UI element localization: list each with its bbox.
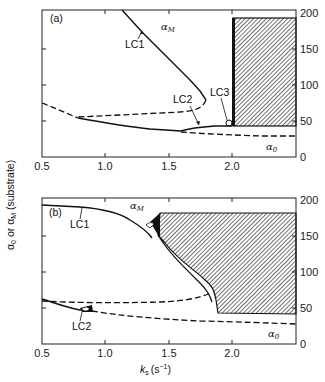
panel-a-alpha-0-label: α0 bbox=[266, 141, 278, 154]
x-axis-label: ks(s−1) bbox=[140, 363, 171, 376]
panel-a-label: (a) bbox=[50, 12, 63, 24]
panel-b-alpha-m-label: αM bbox=[130, 200, 145, 213]
panel-a-alpha0-unstable-left bbox=[42, 103, 78, 118]
panel-b-xtick: 0.5 bbox=[34, 347, 49, 359]
panel-a-lc1-label: LC1 bbox=[125, 38, 144, 50]
bifurcation-figure: α0 or αM (substrate) 0.5 1.0 1.5 2.0 0 5… bbox=[0, 0, 325, 382]
panel-b-ytick: 100 bbox=[300, 266, 318, 278]
panel-a-xtick: 2.0 bbox=[224, 160, 239, 172]
panel-b-ytick: 150 bbox=[300, 230, 318, 242]
panel-b-ytick: 0 bbox=[300, 338, 306, 350]
panel-b-ytick: 200 bbox=[300, 194, 318, 206]
panel-b-alpha-0-label: α0 bbox=[268, 328, 280, 341]
panel-a-xtick: 0.5 bbox=[34, 160, 49, 172]
panel-a: 0.5 1.0 1.5 2.0 0 50 100 150 200 (a) αM … bbox=[34, 7, 318, 172]
panel-b: 0.5 1.0 1.5 2.0 0 50 100 150 200 (b) αM … bbox=[34, 194, 318, 376]
panel-b-ytick: 50 bbox=[300, 302, 312, 314]
panel-a-ytick: 200 bbox=[300, 7, 318, 19]
panel-a-hatched-region bbox=[233, 18, 296, 126]
panel-a-lc2-branch bbox=[181, 126, 232, 131]
panel-b-hatched-region bbox=[158, 213, 296, 314]
panel-a-ytick: 100 bbox=[300, 79, 318, 91]
panel-a-ytick: 50 bbox=[300, 115, 312, 127]
panel-a-alpha0-stable bbox=[78, 118, 181, 131]
panel-a-xtick: 1.5 bbox=[161, 160, 176, 172]
panel-a-lc3-label: LC3 bbox=[210, 86, 229, 98]
panel-a-xtick: 1.0 bbox=[97, 160, 112, 172]
panel-b-xtick: 2.0 bbox=[224, 347, 239, 359]
y-axis-label: α0 or αM (substrate) bbox=[4, 160, 17, 250]
panel-b-xtick: 1.0 bbox=[97, 347, 112, 359]
panel-b-lc2-label: LC2 bbox=[72, 320, 91, 332]
panel-b-lc1-label: LC1 bbox=[70, 218, 89, 230]
panel-a-lc2-label: LC2 bbox=[173, 93, 192, 105]
panel-a-ytick: 150 bbox=[300, 43, 318, 55]
panel-b-xtick: 1.5 bbox=[161, 347, 176, 359]
panel-a-alpha0-unstable-right bbox=[181, 132, 296, 136]
panel-a-ytick: 0 bbox=[300, 151, 306, 163]
panel-b-upper-dashed bbox=[42, 293, 210, 303]
panel-a-alpha-m-label: αM bbox=[161, 21, 176, 34]
panel-b-label: (b) bbox=[49, 206, 62, 218]
